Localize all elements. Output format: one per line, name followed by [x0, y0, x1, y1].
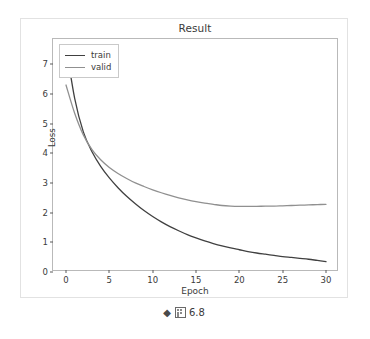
chart-legend: trainvalid [59, 44, 119, 78]
y-tick-mark [50, 182, 53, 183]
x-tick-mark [196, 270, 197, 273]
x-tick-mark [66, 270, 67, 273]
y-tick-label: 4 [43, 148, 48, 158]
legend-line-swatch [65, 55, 85, 56]
y-tick-label: 1 [43, 237, 48, 247]
x-tick-mark [326, 270, 327, 273]
series-line-train [66, 46, 326, 262]
y-axis-label: Loss [47, 128, 57, 147]
y-tick-mark [50, 272, 53, 273]
series-line-valid [66, 85, 326, 206]
x-tick-mark [282, 270, 283, 273]
x-tick-label: 5 [107, 275, 112, 285]
x-tick-label: 10 [147, 275, 158, 285]
y-tick-label: 3 [43, 178, 48, 188]
x-tick-label: 15 [191, 275, 202, 285]
x-axis-label: Epoch [53, 286, 337, 296]
x-tick-label: 25 [277, 275, 288, 285]
x-tick-label: 20 [234, 275, 245, 285]
legend-item-valid: valid [65, 61, 111, 73]
x-tick-label: 0 [63, 275, 68, 285]
legend-item-train: train [65, 49, 111, 61]
y-tick-label: 2 [43, 208, 48, 218]
chart-title: Result [52, 22, 338, 34]
x-tick-mark [239, 270, 240, 273]
y-tick-label: 0 [43, 267, 48, 277]
y-tick-mark [50, 242, 53, 243]
figure-caption: ◆6.8 [20, 306, 348, 318]
legend-label: valid [91, 61, 111, 73]
plot-area: Loss Epoch 01234567 051015202530 trainva… [52, 38, 338, 271]
y-tick-mark [50, 153, 53, 154]
legend-label: train [91, 49, 111, 61]
x-tick-label: 30 [321, 275, 332, 285]
x-tick-mark [109, 270, 110, 273]
figure-number: 6.8 [189, 307, 205, 318]
legend-line-swatch [65, 67, 85, 68]
diamond-icon: ◆ [163, 307, 171, 318]
y-tick-label: 7 [43, 59, 48, 69]
y-tick-mark [50, 212, 53, 213]
y-tick-label: 6 [43, 89, 48, 99]
y-tick-mark [50, 64, 53, 65]
cjk-box-glyph-icon [175, 307, 186, 318]
y-tick-label: 5 [43, 119, 48, 129]
y-tick-mark [50, 123, 53, 124]
x-tick-mark [152, 270, 153, 273]
y-tick-mark [50, 93, 53, 94]
